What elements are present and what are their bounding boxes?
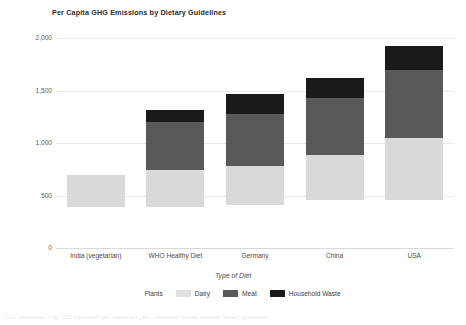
- y-axis-tick-label: 0: [8, 244, 52, 251]
- legend-swatch-icon: [223, 290, 238, 297]
- bar-segment-dairy[interactable]: [226, 166, 284, 205]
- bar-segment-plants[interactable]: [146, 207, 204, 248]
- bar-segment-household-waste[interactable]: [306, 78, 364, 98]
- gridline: [56, 248, 454, 249]
- chart-legend: PlantsDairyMeatHousehold Waste: [0, 290, 466, 297]
- legend-item-household-waste[interactable]: Household Waste: [270, 290, 341, 297]
- bar-segment-plants[interactable]: [226, 205, 284, 248]
- legend-item-meat[interactable]: Meat: [223, 290, 257, 297]
- bar-stack[interactable]: [146, 110, 204, 248]
- bar-segment-meat[interactable]: [385, 70, 443, 138]
- x-axis-tick-label: Germany: [241, 252, 268, 259]
- bar-segment-household-waste[interactable]: [385, 46, 443, 70]
- legend-label: Household Waste: [289, 290, 341, 297]
- y-axis: 05001,0001,5002,000: [4, 38, 52, 248]
- legend-item-plants[interactable]: Plants: [125, 290, 162, 297]
- x-axis-tick-label: China: [326, 252, 343, 259]
- x-axis-tick-label: USA: [407, 252, 421, 259]
- bar-segment-household-waste[interactable]: [226, 94, 284, 114]
- bar-segment-plants[interactable]: [385, 200, 443, 248]
- legend-label: Meat: [242, 290, 257, 297]
- y-axis-tick-label: 1,000: [8, 139, 52, 146]
- bar-segment-meat[interactable]: [306, 98, 364, 155]
- bar-segment-plants[interactable]: [306, 200, 364, 248]
- bar-segment-dairy[interactable]: [67, 175, 125, 207]
- bar-segment-meat[interactable]: [226, 114, 284, 166]
- y-axis-tick-label: 500: [8, 192, 52, 199]
- legend-label: Dairy: [195, 290, 210, 297]
- legend-swatch-icon: [270, 290, 285, 297]
- bar-stack[interactable]: [385, 46, 443, 248]
- bar-stack[interactable]: [306, 78, 364, 248]
- legend-label: Plants: [144, 290, 162, 297]
- bar-segment-household-waste[interactable]: [146, 110, 204, 122]
- y-axis-tick-label: 1,500: [8, 87, 52, 94]
- gridline: [56, 38, 454, 39]
- bar-segment-dairy[interactable]: [385, 138, 443, 200]
- bar-segment-meat[interactable]: [146, 122, 204, 170]
- chart-container: Per Capita GHG Emissions by Dietary Guid…: [0, 0, 466, 325]
- x-axis-tick-label: India (vegetarian): [70, 252, 121, 259]
- legend-swatch-icon: [125, 290, 140, 297]
- bar-segment-dairy[interactable]: [306, 155, 364, 200]
- x-axis-title: Type of Diet: [0, 272, 466, 279]
- legend-item-dairy[interactable]: Dairy: [176, 290, 210, 297]
- bar-stack[interactable]: [226, 94, 284, 248]
- bar-segment-dairy[interactable]: [146, 170, 204, 207]
- chart-title: Per Capita GHG Emissions by Dietary Guid…: [52, 8, 226, 17]
- plot-area: [56, 38, 454, 248]
- figure-caption: GHG emissions in kg CO2 equivalent per c…: [4, 314, 462, 320]
- legend-swatch-icon: [176, 290, 191, 297]
- y-axis-tick-label: 2,000: [8, 34, 52, 41]
- bar-stack[interactable]: [67, 175, 125, 248]
- x-axis-tick-label: WHO Healthy Diet: [148, 252, 202, 259]
- bar-segment-plants[interactable]: [67, 207, 125, 248]
- x-axis: India (vegetarian)WHO Healthy DietGerman…: [56, 252, 454, 266]
